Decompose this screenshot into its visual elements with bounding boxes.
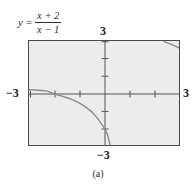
y-axis-min-label: −3	[97, 149, 110, 161]
graphing-calculator-screen	[28, 40, 180, 146]
graph-svg	[29, 41, 179, 145]
x-axis-max-label: 3	[183, 87, 189, 99]
equation-lhs: y	[18, 17, 23, 28]
curve-right-branch	[164, 42, 179, 49]
y-axis-max-label: 3	[100, 25, 106, 37]
plot-surface	[29, 41, 179, 145]
equation-expression: y = x + 2 x − 1	[18, 9, 61, 36]
curve-left-branch	[30, 90, 111, 145]
fraction-denominator: x − 1	[35, 23, 61, 36]
equation-fraction: x + 2 x − 1	[35, 9, 61, 36]
equation-equals-sign: =	[26, 17, 32, 28]
x-axis-min-label: −3	[6, 87, 19, 99]
fraction-numerator: x + 2	[35, 9, 61, 22]
figure-caption: (a)	[0, 168, 196, 179]
